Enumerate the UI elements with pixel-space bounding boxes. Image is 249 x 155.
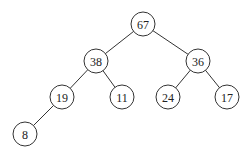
- tree-node: 36: [186, 49, 210, 73]
- tree-node: 8: [13, 122, 37, 146]
- tree-node: 38: [84, 49, 108, 73]
- tree-diagram: 673836191124178: [0, 0, 249, 155]
- node-label: 36: [192, 55, 204, 69]
- nodes: 673836191124178: [13, 12, 239, 146]
- node-label: 24: [162, 91, 174, 105]
- node-label: 17: [221, 91, 233, 105]
- node-label: 8: [22, 128, 28, 142]
- node-label: 11: [116, 91, 128, 105]
- node-label: 38: [90, 55, 102, 69]
- tree-node: 17: [215, 85, 239, 109]
- node-label: 19: [56, 91, 68, 105]
- node-label: 67: [137, 18, 149, 32]
- tree-node: 67: [131, 12, 155, 36]
- edges: [25, 24, 227, 134]
- tree-node: 11: [110, 85, 134, 109]
- tree-node: 24: [156, 85, 180, 109]
- tree-node: 19: [50, 85, 74, 109]
